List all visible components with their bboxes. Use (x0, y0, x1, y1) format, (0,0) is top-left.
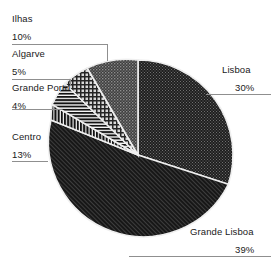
slice-label-lisboa: Lisboa (222, 64, 251, 75)
slice-value-grande-lisboa: 39% (235, 244, 254, 255)
slice-value-lisboa: 30% (235, 82, 254, 93)
slice-label-grande-lisboa: Grande Lisboa (190, 226, 254, 237)
slice-value-algarve: 5% (12, 66, 26, 77)
slice-label-ilhas: Ilhas (12, 13, 33, 24)
slice-label-grande-porto: Grande Porto (12, 82, 70, 93)
slice-value-centro: 13% (12, 149, 31, 160)
slice-value-ilhas: 10% (12, 31, 31, 42)
slice-label-algarve: Algarve (12, 48, 45, 59)
slice-value-grande-porto: 4% (12, 100, 26, 111)
pie-chart-figure: Ilhas 10% Algarve 5% Grande Porto 4% Cen… (0, 0, 271, 268)
slice-label-centro: Centro (12, 131, 41, 142)
